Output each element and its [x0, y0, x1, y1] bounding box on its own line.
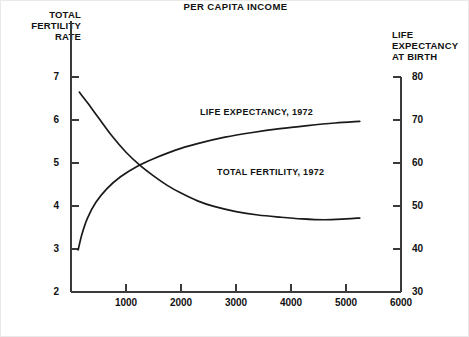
series-life-expectancy — [78, 121, 360, 250]
right-axis-ticks — [393, 77, 401, 249]
chart-figure: TOTAL FERTILITY RATE LIFE EXPECTANCY AT … — [0, 0, 469, 337]
left-axis-ticks — [71, 77, 79, 249]
series-total-fertility — [79, 92, 360, 220]
plot-area — [1, 1, 469, 337]
x-axis-ticks — [126, 284, 401, 292]
